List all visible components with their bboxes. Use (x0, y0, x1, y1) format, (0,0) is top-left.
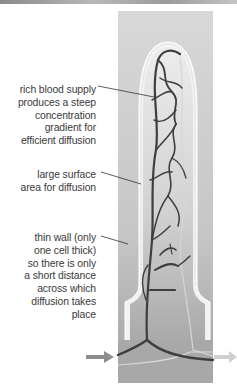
villus-illustration (0, 0, 237, 392)
blood-in-arrow (86, 351, 114, 363)
blood-out-arrow (214, 351, 237, 363)
villus-base (118, 340, 213, 383)
